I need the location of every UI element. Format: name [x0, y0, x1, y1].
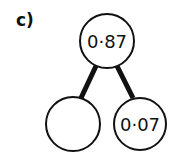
whole-node: 0·87: [80, 14, 134, 68]
part-node-right: 0·07: [114, 98, 166, 150]
connector-right: [117, 66, 133, 98]
connector-left: [81, 66, 96, 98]
part-node-left[interactable]: [46, 97, 100, 151]
part-right-value: 0·07: [120, 114, 160, 135]
part-whole-diagram: 0·87 0·07: [0, 0, 174, 154]
whole-value: 0·87: [87, 31, 127, 52]
